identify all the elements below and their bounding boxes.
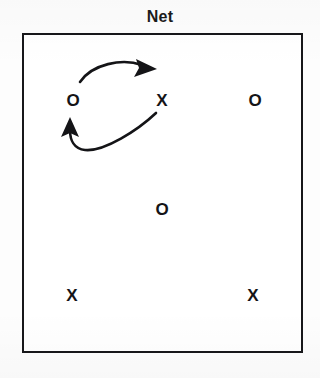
player-marker-back-left: X [66, 287, 77, 304]
player-marker-back-right: X [247, 287, 258, 304]
net-label: Net [0, 8, 320, 26]
player-marker-middle-center: O [155, 201, 168, 218]
player-marker-front-center: X [156, 92, 167, 109]
player-marker-front-right: O [248, 92, 261, 109]
player-marker-front-left: O [66, 92, 79, 109]
play-diagram: Net O X O O X X [0, 0, 320, 378]
court-boundary [22, 33, 303, 353]
